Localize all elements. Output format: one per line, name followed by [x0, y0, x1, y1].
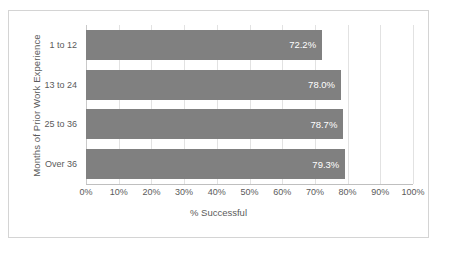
x-tick-label: 70% [306, 187, 324, 197]
x-tick-label: 50% [240, 187, 258, 197]
x-tick-label: 20% [142, 187, 160, 197]
bar-slot: 78.7% [86, 105, 413, 145]
plot-area: 72.2% 78.0% 78.7% 79.3% [86, 25, 413, 184]
x-tick-label: 10% [110, 187, 128, 197]
bar[interactable]: 79.3% [86, 149, 345, 179]
bar-slot: 72.2% [86, 25, 413, 65]
bar-data-label: 78.7% [310, 119, 337, 130]
category-axis-labels: 1 to 12 13 to 24 25 to 36 Over 36 [31, 25, 81, 184]
category-axis-line [86, 184, 413, 185]
category-label: Over 36 [31, 144, 81, 184]
bar-slot: 78.0% [86, 65, 413, 105]
bar[interactable]: 72.2% [86, 30, 322, 60]
x-tick-label: 90% [371, 187, 389, 197]
x-tick-label: 30% [175, 187, 193, 197]
bar-slot: 79.3% [86, 144, 413, 184]
category-label: 25 to 36 [31, 105, 81, 145]
bar[interactable]: 78.7% [86, 109, 343, 139]
bar[interactable]: 78.0% [86, 70, 341, 100]
bar-series: 72.2% 78.0% 78.7% 79.3% [86, 25, 413, 184]
bar-data-label: 79.3% [312, 159, 339, 170]
gridline-100 [413, 25, 414, 184]
x-tick-label: 60% [273, 187, 291, 197]
bar-data-label: 72.2% [289, 39, 316, 50]
category-label: 1 to 12 [31, 25, 81, 65]
x-tick-label: 100% [401, 187, 424, 197]
value-axis-ticks: 0% 10% 20% 30% 40% 50% 60% 70% 80% 90% 1… [86, 187, 413, 201]
x-axis-title: % Successful [9, 207, 428, 218]
category-label: 13 to 24 [31, 65, 81, 105]
x-tick-label: 80% [339, 187, 357, 197]
bar-data-label: 78.0% [308, 79, 335, 90]
x-tick-label: 0% [79, 187, 92, 197]
x-tick-label: 40% [208, 187, 226, 197]
chart-frame: Months of Prior Work Experience 1 to 12 … [8, 10, 429, 238]
